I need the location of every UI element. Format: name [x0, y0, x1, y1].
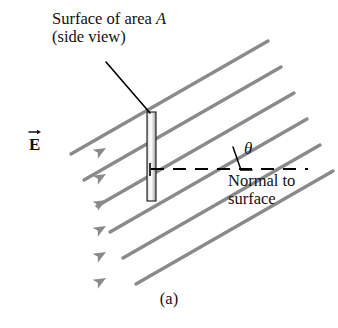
figure-part-label: (a)	[0, 290, 338, 308]
diagram-canvas	[0, 0, 338, 328]
electric-field-label: E	[29, 135, 40, 154]
field-arrowhead-4	[93, 221, 109, 236]
normal-label-line1: Normal to	[228, 171, 295, 190]
field-arrowhead-3	[93, 195, 109, 210]
field-arrowhead-5	[93, 247, 109, 262]
field-arrowhead-6	[93, 273, 109, 288]
surface-area-symbol: A	[156, 9, 166, 28]
surface-caption-line2: (side view)	[52, 27, 126, 46]
surface-plate-body	[147, 112, 156, 201]
surface-caption: Surface of area A(side view)	[52, 10, 166, 47]
angle-theta-label: θ	[244, 139, 252, 158]
vector-arrow-icon	[28, 128, 41, 135]
field-line-5	[71, 41, 268, 154]
surface-caption-line1-text: Surface of area	[52, 9, 156, 28]
field-line-arrowheads	[93, 143, 109, 288]
surface-plate	[147, 112, 156, 201]
normal-to-surface-label: Normal tosurface	[228, 172, 295, 209]
electric-flux-diagram: Surface of area A(side view) E θ Normal …	[0, 0, 338, 328]
electric-field-lines	[71, 41, 333, 284]
electric-field-symbol: E	[29, 135, 40, 154]
field-arrowhead-1	[93, 143, 109, 158]
field-line-4	[84, 67, 281, 180]
normal-label-line2: surface	[228, 189, 276, 208]
surface-leader-line	[106, 62, 150, 113]
